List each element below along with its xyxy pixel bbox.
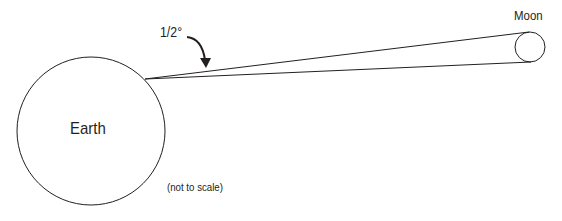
angle-arrow-icon bbox=[187, 37, 205, 60]
arrowhead-icon bbox=[200, 58, 211, 68]
earth-moon-diagram bbox=[0, 0, 562, 221]
sightline-top bbox=[145, 32, 529, 79]
moon-circle bbox=[515, 32, 545, 62]
angle-label: 1/2° bbox=[160, 24, 182, 40]
moon-label: Moon bbox=[514, 8, 543, 23]
sightline-bottom bbox=[145, 62, 531, 79]
scale-note: (not to scale) bbox=[167, 181, 223, 193]
earth-label: Earth bbox=[70, 119, 106, 139]
